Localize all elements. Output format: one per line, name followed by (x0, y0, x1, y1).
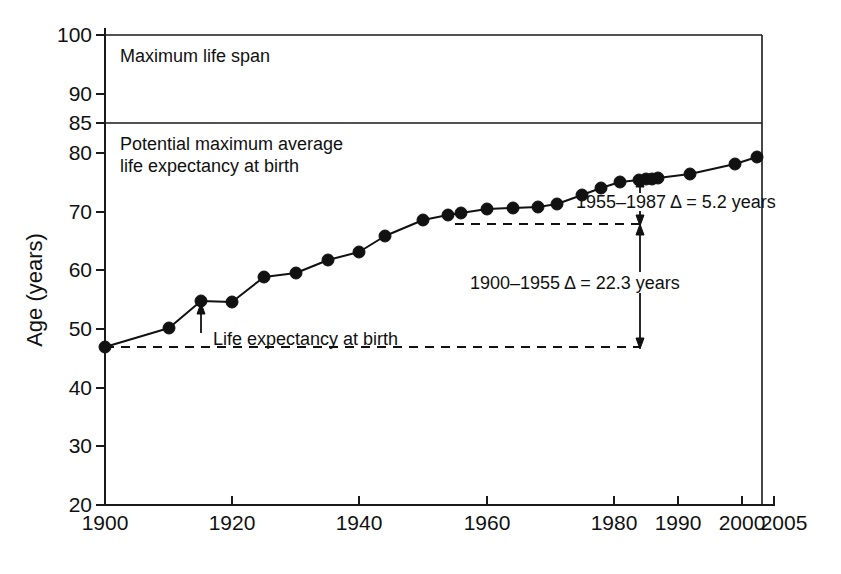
data-point (481, 203, 493, 215)
data-point (99, 341, 111, 353)
x-tick-label-2000: 2000 (719, 511, 766, 534)
data-point (751, 151, 763, 163)
data-point (353, 246, 365, 258)
series-life-expectancy (99, 151, 763, 353)
x-tick-label-1960: 1960 (464, 511, 511, 534)
y-tick-label-85: 85 (69, 111, 92, 134)
data-point (442, 209, 454, 221)
y-tick-label-50: 50 (69, 317, 92, 340)
data-point (226, 296, 238, 308)
delta-1955-1987-label: 1955–1987 Δ = 5.2 years (576, 192, 776, 212)
y-axis-title: Age (years) (22, 233, 47, 347)
data-point (652, 172, 664, 184)
life-expectancy-line-chart: 100 90 85 80 70 60 50 40 30 20 1900 1920… (0, 0, 841, 574)
data-point (551, 198, 563, 210)
y-tick-label-100: 100 (57, 23, 92, 46)
y-tick-label-60: 60 (69, 258, 92, 281)
data-point (614, 176, 626, 188)
potential-max-average-label-line1: Potential maximum average (120, 134, 343, 154)
x-tick-label-1900: 1900 (82, 511, 129, 534)
data-point (379, 230, 391, 242)
data-point (163, 322, 175, 334)
x-tick-label-2005: 2005 (761, 511, 808, 534)
data-point (507, 202, 519, 214)
data-point (322, 254, 334, 266)
y-tick-label-80: 80 (69, 141, 92, 164)
y-axis-ticks: 100 90 85 80 70 60 50 40 30 20 (57, 23, 105, 516)
data-point (729, 158, 741, 170)
life-expectancy-callout-arrow (197, 303, 205, 333)
potential-max-average-label-line2: life expectancy at birth (120, 156, 299, 176)
data-point (290, 267, 302, 279)
data-point (417, 214, 429, 226)
y-tick-label-40: 40 (69, 376, 92, 399)
series-polyline (105, 157, 757, 347)
x-axis-ticks: 1900 1920 1940 1960 1980 1990 2000 2005 (82, 496, 808, 534)
x-tick-label-1920: 1920 (209, 511, 256, 534)
x-tick-label-1990: 1990 (655, 511, 702, 534)
x-tick-label-1980: 1980 (591, 511, 638, 534)
maximum-life-span-label: Maximum life span (120, 46, 270, 66)
y-tick-label-90: 90 (69, 82, 92, 105)
data-point (684, 168, 696, 180)
y-tick-label-30: 30 (69, 434, 92, 457)
data-point (455, 207, 467, 219)
data-point (258, 271, 270, 283)
delta-1900-1955-label: 1900–1955 Δ = 22.3 years (470, 273, 680, 293)
y-tick-label-70: 70 (69, 200, 92, 223)
x-tick-label-1940: 1940 (336, 511, 383, 534)
plot-frame (105, 28, 775, 505)
data-point (532, 201, 544, 213)
chart-container: 100 90 85 80 70 60 50 40 30 20 1900 1920… (0, 0, 841, 574)
life-expectancy-callout-label: Life expectancy at birth (213, 329, 398, 349)
